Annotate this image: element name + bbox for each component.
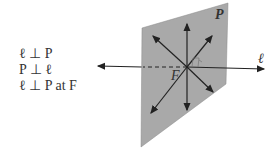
line-l-left — [98, 66, 142, 67]
line-label: ℓ — [258, 52, 264, 66]
plane-p — [141, 3, 228, 147]
perpendicular-diagram — [0, 0, 280, 155]
plane-label: P — [215, 8, 224, 22]
foot-label: F — [171, 69, 180, 83]
